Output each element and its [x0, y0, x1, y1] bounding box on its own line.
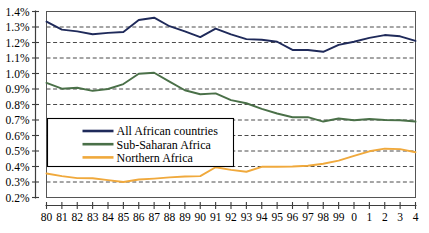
y-tick-label: 0.4%: [6, 161, 30, 173]
chart-legend: All African countriesSub-Saharan AfricaN…: [48, 119, 234, 167]
x-tick-label: 1: [367, 211, 373, 223]
legend-label: Sub-Saharan Africa: [117, 138, 212, 152]
x-tick-label: 0: [351, 211, 357, 223]
x-tick-label: 99: [333, 211, 345, 223]
chart-canvas: 0.2%0.3%0.4%0.5%0.6%0.7%0.8%0.9%1.0%1.1%…: [0, 0, 429, 233]
y-tick-label: 1.3%: [6, 21, 30, 33]
x-tick-label: 93: [241, 211, 253, 223]
x-tick-label: 88: [164, 211, 176, 223]
x-tick-label: 82: [72, 211, 84, 223]
y-tick-label: 0.9%: [6, 83, 30, 95]
x-tick-label: 3: [397, 211, 403, 223]
y-tick-label: 0.7%: [6, 114, 30, 126]
y-tick-label: 0.8%: [6, 99, 30, 111]
x-tick-label: 86: [133, 211, 145, 223]
x-tick-label: 97: [302, 211, 314, 223]
x-tick-label: 98: [318, 211, 330, 223]
y-tick-label: 1.4%: [6, 6, 30, 18]
y-tick-label: 1.1%: [6, 52, 30, 64]
legend-label: Northern Africa: [117, 151, 194, 165]
x-tick-label: 4: [413, 211, 419, 223]
y-tick-label: 0.2%: [6, 192, 30, 204]
line-chart: 0.2%0.3%0.4%0.5%0.6%0.7%0.8%0.9%1.0%1.1%…: [0, 0, 429, 233]
x-tick-label: 90: [195, 211, 207, 223]
x-tick-label: 95: [271, 211, 283, 223]
x-tick-label: 83: [87, 211, 99, 223]
legend-label: All African countries: [117, 124, 219, 138]
x-tick-label: 2: [382, 211, 388, 223]
x-tick-label: 85: [118, 211, 130, 223]
x-tick-label: 89: [179, 211, 191, 223]
y-tick-label: 0.6%: [6, 130, 30, 142]
y-tick-label: 1.2%: [6, 37, 30, 49]
x-tick-label: 94: [256, 211, 268, 223]
x-tick-label: 87: [148, 211, 160, 223]
y-tick-label: 0.5%: [6, 145, 30, 157]
y-tick-label: 1.0%: [6, 68, 30, 80]
y-axis-tick-labels: 0.2%0.3%0.4%0.5%0.6%0.7%0.8%0.9%1.0%1.1%…: [6, 6, 30, 204]
x-tick-label: 92: [225, 211, 237, 223]
x-tick-label: 96: [287, 211, 299, 223]
x-tick-label: 81: [56, 211, 68, 223]
x-axis-tick-labels: 8081828384858687888990919293949596979899…: [41, 211, 419, 223]
y-tick-label: 0.3%: [6, 176, 30, 188]
x-tick-label: 80: [41, 211, 53, 223]
x-tick-label: 84: [102, 211, 114, 223]
x-tick-label: 91: [210, 211, 222, 223]
